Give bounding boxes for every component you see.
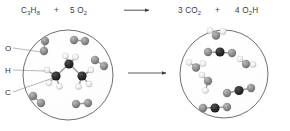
carbon-dioxide-molecule	[199, 103, 231, 113]
product-carbon-dioxide: 3CO2	[178, 6, 201, 16]
chemical-equation: C3H8 + 5O2 3CO2 + 4O2H	[21, 6, 258, 16]
product-water: 4O2H	[235, 6, 258, 16]
legend-label-hydrogen: H	[5, 66, 11, 75]
plus-sign-products: +	[215, 6, 220, 15]
legend-label-oxygen: O	[5, 44, 11, 53]
reactants-container	[23, 30, 113, 120]
propane-formula: C3H8	[21, 6, 40, 16]
carbon-dioxide-molecule	[204, 47, 236, 57]
reactant-oxygen: 5O2	[70, 6, 87, 16]
products-container	[180, 27, 268, 118]
plus-sign-reactants: +	[54, 6, 59, 15]
legend-label-carbon: C	[5, 88, 11, 97]
reactants-circle	[23, 30, 113, 120]
combustion-reaction-diagram: C3H8 + 5O2 3CO2 + 4O2H	[0, 0, 290, 131]
water-formula: 4O2H	[235, 6, 258, 16]
reactant-propane: C3H8	[21, 6, 40, 16]
carbon-dioxide-formula: 3CO2	[178, 6, 201, 16]
oxygen-formula: 5O2	[70, 6, 87, 16]
